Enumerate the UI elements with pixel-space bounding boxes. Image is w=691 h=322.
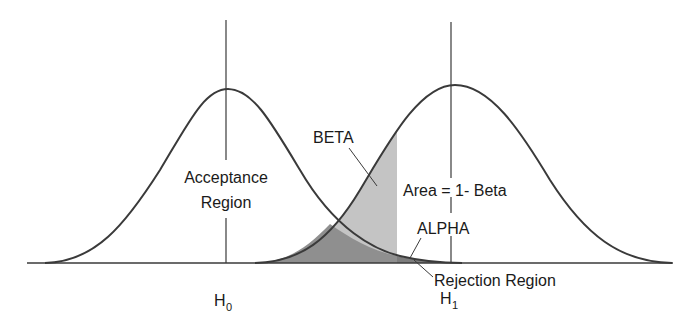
svg-text:1: 1 bbox=[452, 299, 458, 311]
alpha-leader-line bbox=[410, 238, 421, 258]
beta-label: BETA bbox=[313, 129, 354, 146]
svg-text:0: 0 bbox=[226, 301, 232, 313]
alpha-label: ALPHA bbox=[417, 220, 470, 237]
power-area-label: Area = 1- Beta bbox=[403, 182, 507, 199]
h1-label: H 1 bbox=[440, 290, 458, 311]
svg-text:H: H bbox=[440, 290, 452, 307]
h0-label: H 0 bbox=[214, 292, 232, 313]
rejection-region-label: Rejection Region bbox=[434, 272, 556, 289]
hypothesis-test-diagram: BETA Acceptance Region Area = 1- Beta AL… bbox=[0, 0, 691, 322]
svg-text:H: H bbox=[214, 292, 226, 309]
acceptance-region-label-line1: Acceptance bbox=[184, 169, 268, 186]
acceptance-region-label-line2: Region bbox=[201, 194, 252, 211]
